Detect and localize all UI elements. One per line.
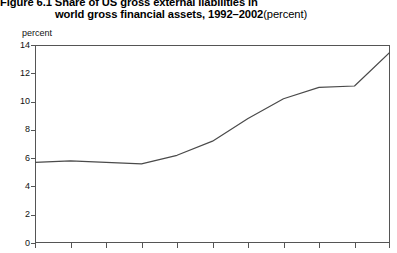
y-axis-tick-label: 0 [25,239,30,248]
x-axis-tick-mark [213,243,214,248]
plot-area [35,45,390,243]
line-chart-svg [35,45,390,243]
y-axis-tick-label: 4 [25,182,30,191]
x-axis-tick-mark [35,243,36,248]
y-axis-tick-labels: 14121086420 [12,45,30,243]
x-axis-tick-marks [35,243,390,253]
x-axis-tick-mark [106,243,107,248]
y-axis-tick-label: 10 [20,97,30,106]
chart-title-unit: (percent) [263,8,307,20]
x-axis-tick-mark [142,243,143,248]
x-axis-tick-mark [319,243,320,248]
y-axis-tick-label: 8 [25,125,30,134]
x-axis-tick-mark [355,243,356,248]
y-axis-unit-label: percent [22,28,52,38]
y-axis-tick-label: 14 [20,41,30,50]
x-axis-tick-mark [177,243,178,248]
x-axis-tick-mark [389,243,390,248]
x-axis-tick-mark [284,243,285,248]
x-axis-tick-mark [71,243,72,248]
chart-title-line-2: world gross financial assets, 1992–2002(… [55,8,307,21]
chart-title-line-2-text: world gross financial assets, 1992–2002 [55,8,263,20]
data-series-line [35,52,390,164]
y-axis-tick-label: 12 [20,69,30,78]
x-axis-tick-mark [248,243,249,248]
y-axis-tick-label: 6 [25,154,30,163]
y-axis-tick-label: 2 [25,210,30,219]
